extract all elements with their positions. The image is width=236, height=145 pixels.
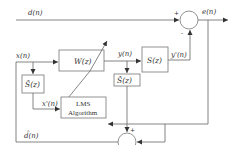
minus-sign: - <box>181 29 183 36</box>
estimated-desired-path: d̂(n) <box>16 130 118 142</box>
lms-algorithm-block: LMS Algorithm <box>61 97 106 118</box>
desired-signal-path: d(n) <box>16 9 179 20</box>
fxlms-diagram: d(n) + - e(n) x(n) W(z) y(n) S(z) <box>0 0 236 145</box>
s-hat-right-label: Ŝ(z) <box>117 76 132 85</box>
s-label: S(z) <box>147 56 162 65</box>
filtered-control-path: y'(n) <box>168 30 190 60</box>
y-prime-label: y'(n) <box>170 51 187 59</box>
d-hat-label: d̂(n) <box>24 130 39 140</box>
secondary-estimate-left-block: Ŝ(z) <box>22 75 44 93</box>
d-label: d(n) <box>28 9 43 17</box>
lms-line1: LMS <box>76 100 91 108</box>
estimate-summing-junction: + + <box>118 124 165 145</box>
filtered-reference-path: x'(n) <box>33 93 60 109</box>
secondary-path-block: S(z) <box>142 47 168 72</box>
plus-top: + <box>130 126 135 133</box>
s-hat-left-label: Ŝ(z) <box>25 80 40 89</box>
secondary-estimate-right-block: Ŝ(z) <box>114 74 140 132</box>
plus-sign: + <box>174 9 179 16</box>
error-summing-junction: + - <box>174 9 198 36</box>
adaptive-filter-block: W(z) <box>59 41 107 98</box>
reference-signal-path: x(n) <box>16 52 58 142</box>
y-label: y(n) <box>117 50 132 58</box>
e-label: e(n) <box>202 8 216 16</box>
lms-line2: Algorithm <box>68 109 98 117</box>
control-signal-path: y(n) <box>104 50 141 73</box>
x-prime-label: x'(n) <box>42 100 58 108</box>
w-label: W(z) <box>74 57 92 66</box>
x-label: x(n) <box>16 52 30 60</box>
